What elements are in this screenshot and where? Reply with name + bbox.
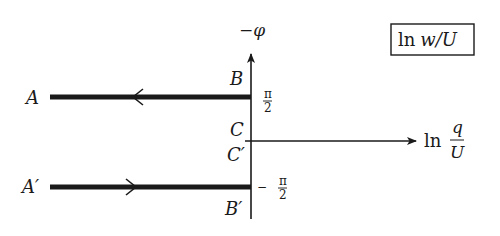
- tick-upper-den: 2: [264, 101, 272, 115]
- tick-lower-sign: −: [257, 180, 267, 194]
- point-B-prime: B′: [224, 198, 242, 219]
- plane-label: lnw/U: [398, 29, 458, 50]
- point-A-prime: A′: [20, 176, 39, 197]
- point-B: B: [229, 68, 243, 89]
- point-A: A: [24, 87, 39, 108]
- tick-upper-num: π: [264, 87, 272, 101]
- horizontal-axis-den: U: [450, 142, 465, 162]
- point-C-prime: C′: [227, 144, 245, 165]
- vertical-axis-label: −φ: [239, 20, 265, 40]
- horizontal-axis-prefix: ln: [424, 130, 442, 151]
- horizontal-axis-num: q: [452, 117, 463, 137]
- point-C: C: [230, 119, 244, 140]
- tick-lower-den: 2: [279, 188, 287, 202]
- mapping-diagram: −φ lnw/U ln q U π 2 − π 2 A A′ B B′ C C′: [0, 0, 500, 236]
- tick-lower-num: π: [279, 174, 287, 188]
